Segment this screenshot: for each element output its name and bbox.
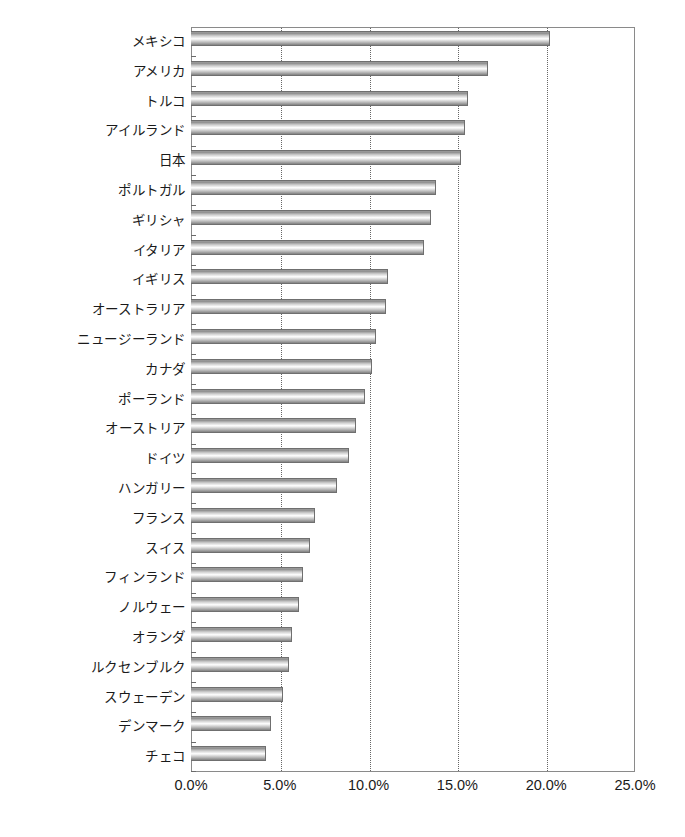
category-label: ポルトガル [0, 184, 186, 198]
category-label: ポーランド [0, 393, 186, 407]
category-label: スイス [0, 542, 186, 556]
category-label: チェコ [0, 750, 186, 764]
category-label: 日本 [0, 154, 186, 168]
category-label: オーストラリア [0, 303, 186, 317]
category-label: オーストリア [0, 422, 186, 436]
category-label: イギリス [0, 273, 186, 287]
category-label: ハンガリー [0, 482, 186, 496]
category-label: アメリカ [0, 65, 186, 79]
category-label: カナダ [0, 363, 186, 377]
x-tick-label: 15.0% [437, 778, 478, 793]
category-label: フランス [0, 512, 186, 526]
x-tick-label: 20.0% [526, 778, 567, 793]
x-tick-label: 5.0% [263, 778, 296, 793]
value-axis-labels: 0.0%5.0%10.0%15.0%20.0%25.0% [0, 778, 685, 808]
gridline-20.0% [547, 28, 548, 771]
category-label: オランダ [0, 631, 186, 645]
category-label: ドイツ [0, 452, 186, 466]
gridline-15.0% [458, 28, 459, 771]
category-label: メキシコ [0, 35, 186, 49]
gridline-5.0% [281, 28, 282, 771]
category-label: ギリシャ [0, 214, 186, 228]
category-label: フィンランド [0, 571, 186, 585]
category-label: トルコ [0, 95, 186, 109]
category-label: イタリア [0, 244, 186, 258]
x-tick-label: 25.0% [614, 778, 655, 793]
category-label: ルクセンブルク [0, 661, 186, 675]
x-tick-label: 10.0% [348, 778, 389, 793]
category-label: ノルウェー [0, 601, 186, 615]
category-label: スウェーデン [0, 691, 186, 705]
bar-chart: メキシコアメリカトルコアイルランド日本ポルトガルギリシャイタリアイギリスオースト… [0, 0, 685, 837]
gridline-10.0% [370, 28, 371, 771]
category-label: デンマーク [0, 720, 186, 734]
category-axis-labels: メキシコアメリカトルコアイルランド日本ポルトガルギリシャイタリアイギリスオースト… [0, 27, 186, 772]
category-label: ニュージーランド [0, 333, 186, 347]
x-tick-label: 0.0% [174, 778, 207, 793]
plot-area [191, 27, 635, 772]
category-label: アイルランド [0, 124, 186, 138]
